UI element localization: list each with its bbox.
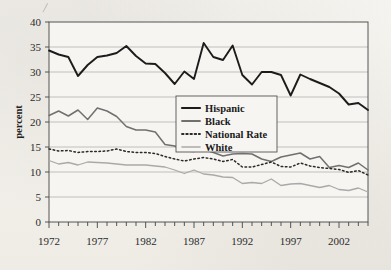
legend-label-hispanic: Hispanic <box>205 103 245 114</box>
x-axis-ticks <box>49 222 368 228</box>
x-tick-label: 1972 <box>38 235 60 247</box>
chart-canvas: 0510152025303540 19721977198219871992199… <box>0 0 391 270</box>
y-tick-label: 10 <box>30 166 42 178</box>
y-tick-label: 5 <box>36 191 42 203</box>
y-tick-label: 25 <box>30 91 42 103</box>
chart-legend: HispanicBlackNational RateWhite <box>176 96 277 153</box>
y-tick-label: 20 <box>30 116 42 128</box>
x-axis-tick-labels: 1972197719821987199219972002 <box>38 235 350 247</box>
y-tick-label: 30 <box>30 66 42 78</box>
y-tick-label: 40 <box>30 16 42 28</box>
legend-label-national-rate: National Rate <box>205 129 267 140</box>
y-axis-tick-labels: 0510152025303540 <box>30 16 42 228</box>
legend-label-black: Black <box>205 116 231 127</box>
x-tick-label: 1992 <box>231 235 253 247</box>
y-tick-label: 35 <box>30 41 42 53</box>
line-chart: 0510152025303540 19721977198219871992199… <box>0 0 391 270</box>
x-tick-label: 1982 <box>135 235 157 247</box>
y-tick-label: 15 <box>30 141 42 153</box>
x-tick-label: 2002 <box>328 235 350 247</box>
y-tick-label: 0 <box>36 216 42 228</box>
x-tick-label: 1977 <box>86 235 109 247</box>
legend-label-white: White <box>205 142 233 153</box>
x-tick-label: 1987 <box>183 235 206 247</box>
x-tick-label: 1997 <box>280 235 303 247</box>
y-axis-ticks <box>45 22 49 222</box>
y-axis-title: percent <box>13 105 24 139</box>
